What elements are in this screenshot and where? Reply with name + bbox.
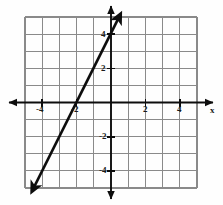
x-tick-label-pos2: 2 (143, 105, 148, 114)
y-tick-label-neg2: -2 (99, 132, 107, 141)
x-axis-label: x (210, 106, 215, 115)
x-tick-label-pos4: 4 (177, 105, 182, 114)
y-tick-label-pos4: 4 (101, 30, 106, 39)
x-tick-label-neg2: -2 (71, 105, 79, 114)
coordinate-plane-figure: -4 -2 2 4 4 2 -2 -4 x (0, 0, 223, 205)
graph-canvas (0, 0, 223, 205)
x-tick-label-neg4: -4 (36, 105, 44, 114)
y-tick-label-pos2: 2 (101, 64, 106, 73)
y-tick-label-neg4: -4 (99, 166, 107, 175)
